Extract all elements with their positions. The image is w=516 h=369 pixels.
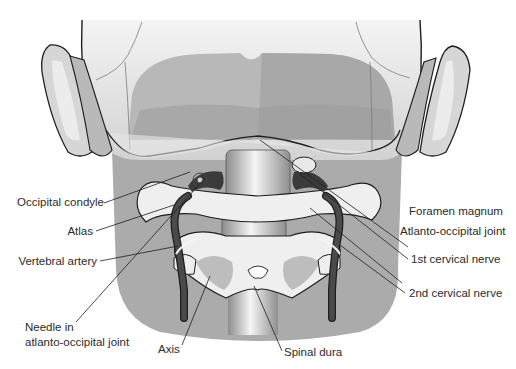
label-axis: Axis — [158, 343, 180, 356]
anatomy-illustration — [0, 0, 516, 369]
label-foramen-magnum: Foramen magnum — [409, 205, 503, 218]
label-spinal-dura: Spinal dura — [284, 346, 342, 359]
label-occipital-condyle: Occipital condyle — [0, 196, 104, 209]
label-vertebral-artery: Vertebral artery — [0, 255, 97, 268]
label-atlanto-occipital-joint: Atlanto-occipital joint — [400, 225, 505, 238]
skull — [82, 20, 422, 160]
label-second-cervical-nerve: 2nd cervical nerve — [409, 287, 502, 300]
label-needle-line2: atlanto-occipital joint — [25, 336, 129, 349]
label-atlas: Atlas — [0, 225, 93, 238]
label-needle-line1: Needle in — [25, 321, 74, 334]
label-first-cervical-nerve: 1st cervical nerve — [411, 253, 500, 266]
